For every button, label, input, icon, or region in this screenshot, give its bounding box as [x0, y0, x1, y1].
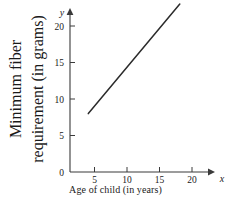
y-axis-title-line-1: Minimum fiber: [5, 15, 27, 163]
y-tick-label-10: 10: [55, 95, 65, 105]
y-tick-marks: [70, 26, 75, 136]
x-axis-arrow-icon: [208, 169, 215, 176]
x-tick-marks: [95, 167, 193, 172]
y-tick-label-15: 15: [55, 58, 65, 68]
fiber-requirement-chart: 5 10 15 20 5 10 15 20 0 y x Age of child…: [0, 0, 231, 207]
x-axis-variable-label: x: [219, 173, 225, 184]
y-tick-label-20: 20: [55, 22, 65, 32]
origin-label: 0: [59, 168, 64, 178]
data-series-line: [88, 4, 180, 114]
y-axis-variable-label: y: [59, 7, 65, 18]
y-axis-title: Minimum fiber requirement (in grams): [5, 15, 48, 163]
y-axis-arrow-icon: [67, 8, 74, 15]
y-tick-label-5: 5: [59, 131, 64, 141]
y-axis-title-wrapper: Minimum fiber requirement (in grams): [0, 0, 54, 178]
x-axis-title: Age of child (in years): [0, 184, 231, 195]
y-axis-title-line-2: requirement (in grams): [27, 15, 49, 163]
